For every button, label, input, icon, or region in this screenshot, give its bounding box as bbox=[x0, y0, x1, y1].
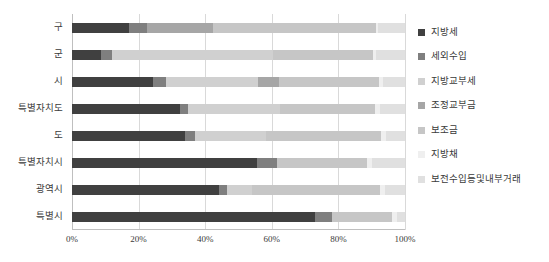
bar-segment bbox=[372, 158, 405, 168]
legend-item-label: 조정교부금 bbox=[431, 101, 476, 111]
bar-segment bbox=[72, 23, 129, 33]
bar-segment bbox=[185, 131, 194, 141]
legend-item-label: 지방교부세 bbox=[431, 77, 476, 87]
bar-segment bbox=[180, 104, 188, 114]
bar-segment bbox=[376, 50, 405, 60]
gridline-100 bbox=[405, 14, 406, 230]
y-axis-tick-label: 특별자치도 bbox=[18, 104, 63, 114]
legend-item[interactable]: 세외수입 bbox=[418, 45, 546, 70]
bar-row bbox=[72, 131, 405, 141]
legend-item[interactable]: 조정교부금 bbox=[418, 94, 546, 119]
legend-item-label: 지방채 bbox=[431, 150, 458, 160]
bar-segment bbox=[72, 185, 219, 195]
bar-row bbox=[72, 185, 405, 195]
bar-segment bbox=[195, 131, 267, 141]
bar-segment bbox=[188, 104, 280, 114]
bar-segment bbox=[147, 23, 213, 33]
bar-segment bbox=[219, 185, 227, 195]
y-axis-tick-label: 광역시 bbox=[36, 185, 63, 195]
legend-swatch-icon bbox=[418, 29, 425, 36]
bar-segment bbox=[280, 104, 375, 114]
bar-segment bbox=[153, 77, 166, 87]
bar-segment bbox=[397, 212, 405, 222]
bar-segment bbox=[72, 158, 257, 168]
legend-item-label: 지방세 bbox=[431, 28, 458, 38]
x-axis-tick-label: 0% bbox=[66, 234, 78, 244]
x-axis-tick-label: 80% bbox=[330, 234, 347, 244]
y-axis-labels: 구군시특별자치도도특별자치시광역시특별시 bbox=[0, 14, 68, 230]
legend-swatch-icon bbox=[418, 151, 425, 158]
bar-row bbox=[72, 212, 405, 222]
legend-item-label: 보조금 bbox=[431, 126, 458, 136]
legend-item[interactable]: 지방세 bbox=[418, 20, 546, 45]
bar-segment bbox=[383, 77, 405, 87]
legend-swatch-icon bbox=[418, 102, 425, 109]
bar-row bbox=[72, 77, 405, 87]
bar-segment bbox=[380, 104, 405, 114]
bar-segment bbox=[258, 77, 280, 87]
legend-item-label: 세외수입 bbox=[431, 52, 467, 62]
bar-segment bbox=[257, 158, 277, 168]
y-axis-tick-label: 시 bbox=[54, 77, 63, 87]
bar-segment bbox=[227, 185, 252, 195]
legend-item[interactable]: 지방채 bbox=[418, 143, 546, 168]
bar-segment bbox=[72, 104, 180, 114]
legend-item[interactable]: 보전수입등및내부거래 bbox=[418, 167, 546, 192]
bar-row bbox=[72, 50, 405, 60]
y-axis-tick-label: 도 bbox=[54, 131, 63, 141]
legend-swatch-icon bbox=[418, 127, 425, 134]
bar-segment bbox=[279, 77, 379, 87]
bar-segment bbox=[72, 77, 153, 87]
x-axis-tick-label: 20% bbox=[130, 234, 147, 244]
bar-segment bbox=[252, 185, 380, 195]
x-axis-tick-label: 40% bbox=[197, 234, 214, 244]
bar-segment bbox=[332, 212, 392, 222]
legend-swatch-icon bbox=[418, 176, 425, 183]
legend: 지방세세외수입지방교부세조정교부금보조금지방채보전수입등및내부거래 bbox=[418, 20, 546, 192]
x-axis-labels: 0%20%40%60%80%100% bbox=[72, 234, 405, 250]
legend-swatch-icon bbox=[418, 78, 425, 85]
bar-segment bbox=[385, 185, 405, 195]
bar-segment bbox=[166, 77, 258, 87]
bar-segment bbox=[266, 131, 381, 141]
bar-segment bbox=[72, 131, 185, 141]
bar-segment bbox=[72, 212, 315, 222]
bar-segment bbox=[315, 212, 332, 222]
legend-item[interactable]: 지방교부세 bbox=[418, 69, 546, 94]
legend-item[interactable]: 보조금 bbox=[418, 118, 546, 143]
bar-segment bbox=[378, 23, 405, 33]
bar-row bbox=[72, 23, 405, 33]
y-axis-tick-label: 구 bbox=[54, 23, 63, 33]
x-axis-line bbox=[72, 229, 405, 230]
bar-segment bbox=[213, 23, 376, 33]
bar-segment bbox=[72, 50, 101, 60]
bar-segment bbox=[112, 50, 274, 60]
bar-row bbox=[72, 104, 405, 114]
bar-segment bbox=[277, 158, 367, 168]
stacked-bar-chart: 구군시특별자치도도특별자치시광역시특별시 0%20%40%60%80%100% … bbox=[0, 0, 549, 262]
y-axis-tick-label: 군 bbox=[54, 50, 63, 60]
x-axis-tick-label: 100% bbox=[395, 234, 416, 244]
plot-area bbox=[72, 14, 405, 230]
y-axis-tick-label: 특별자치시 bbox=[18, 158, 63, 168]
bar-row bbox=[72, 158, 405, 168]
x-axis-tick-label: 60% bbox=[264, 234, 281, 244]
bar-segment bbox=[129, 23, 147, 33]
y-axis-tick-label: 특별시 bbox=[36, 212, 63, 222]
bar-series-container bbox=[72, 14, 405, 230]
legend-item-label: 보전수입등및내부거래 bbox=[431, 175, 521, 185]
legend-swatch-icon bbox=[418, 53, 425, 60]
bar-segment bbox=[273, 50, 373, 60]
bar-segment bbox=[386, 131, 405, 141]
bar-segment bbox=[101, 50, 112, 60]
